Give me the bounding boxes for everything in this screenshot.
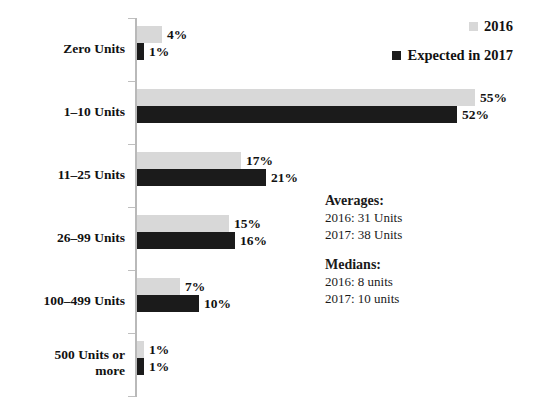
bar-2016[interactable]: 1% <box>137 341 144 358</box>
legend-swatch-icon <box>392 51 401 60</box>
medians-2017: 2017: 10 units <box>325 290 402 307</box>
chart-row-1-10-units: 1–10 Units 55% 52% <box>0 81 537 144</box>
medians-2016: 2016: 8 units <box>325 273 402 290</box>
bar-value-2017: 1% <box>149 359 169 375</box>
chart-row-11-25-units: 11–25 Units 17% 21% <box>0 144 537 207</box>
medians-heading: Medians: <box>325 256 402 273</box>
category-label-zero-units: Zero Units <box>0 41 125 57</box>
bar-group: 17% 21% <box>137 152 266 186</box>
bar-value-2017: 21% <box>271 170 298 186</box>
category-label-line1: 500 Units or <box>0 347 125 363</box>
bar-group: 1% 1% <box>137 341 144 375</box>
bar-2017[interactable]: 1% <box>137 43 144 60</box>
bar-2017[interactable]: 21% <box>137 169 266 186</box>
axis-tick <box>128 396 135 397</box>
bar-2017[interactable]: 1% <box>137 358 144 375</box>
bar-2016[interactable]: 55% <box>137 89 475 106</box>
bar-group: 55% 52% <box>137 89 475 123</box>
bar-value-2017: 16% <box>240 233 267 249</box>
bar-value-2017: 10% <box>204 296 231 312</box>
legend-swatch-icon <box>469 22 478 31</box>
bar-value-2016: 4% <box>167 27 187 43</box>
bar-2016[interactable]: 15% <box>137 215 229 232</box>
bar-2016[interactable]: 7% <box>137 278 180 295</box>
chart-row-500-units-or-more: 500 Units or more 1% 1% <box>0 333 537 396</box>
bar-2017[interactable]: 16% <box>137 232 235 249</box>
averages-heading: Averages: <box>325 192 402 209</box>
bar-group: 15% 16% <box>137 215 235 249</box>
bar-value-2016: 55% <box>480 90 507 106</box>
chart-row-100-499-units: 100–499 Units 7% 10% <box>0 270 537 333</box>
category-label-500-units-or-more: 500 Units or more <box>0 347 125 379</box>
statistics-annotation: Averages: 2016: 31 Units 2017: 38 Units … <box>325 192 402 307</box>
averages-2017: 2017: 38 Units <box>325 226 402 243</box>
stats-spacer <box>325 243 402 256</box>
bar-chart: Zero Units 4% 1% 1–10 Units 55% 52% <box>0 0 537 417</box>
bar-2017[interactable]: 10% <box>137 295 199 312</box>
bar-value-2016: 7% <box>185 279 205 295</box>
category-label-26-99-units: 26–99 Units <box>0 230 125 246</box>
averages-2016: 2016: 31 Units <box>325 209 402 226</box>
category-label-line2: more <box>0 363 125 379</box>
category-label-100-499-units: 100–499 Units <box>0 293 125 309</box>
legend-label: Expected in 2017 <box>407 47 513 64</box>
bar-group: 4% 1% <box>137 26 162 60</box>
chart-row-26-99-units: 26–99 Units 15% 16% <box>0 207 537 270</box>
legend-item-2016[interactable]: 2016 <box>392 18 513 35</box>
bar-2016[interactable]: 4% <box>137 26 162 43</box>
legend-item-expected-2017[interactable]: Expected in 2017 <box>392 47 513 64</box>
category-label-1-10-units: 1–10 Units <box>0 104 125 120</box>
bar-2017[interactable]: 52% <box>137 106 457 123</box>
bar-value-2017: 1% <box>149 44 169 60</box>
category-label-11-25-units: 11–25 Units <box>0 167 125 183</box>
bar-2016[interactable]: 17% <box>137 152 241 169</box>
bar-value-2016: 1% <box>149 342 169 358</box>
bar-group: 7% 10% <box>137 278 199 312</box>
chart-legend: 2016 Expected in 2017 <box>392 18 513 76</box>
bar-value-2016: 15% <box>234 216 261 232</box>
bar-value-2016: 17% <box>246 153 273 169</box>
bar-value-2017: 52% <box>462 107 489 123</box>
legend-label: 2016 <box>484 18 513 35</box>
